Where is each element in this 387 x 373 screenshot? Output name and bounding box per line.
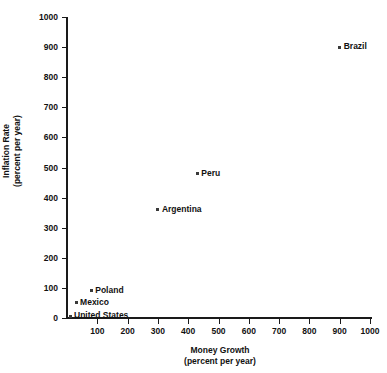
y-tick: [62, 77, 67, 78]
y-tick-label: 700: [22, 102, 58, 112]
data-point-label: Argentina: [162, 204, 202, 214]
data-point-label: Poland: [95, 285, 123, 295]
x-tick-label: 1000: [352, 326, 387, 336]
x-tick: [370, 319, 371, 324]
data-point-label: United States: [74, 310, 128, 320]
y-axis-title: Inflation Rate (percent per year): [1, 81, 23, 221]
data-point-label: Brazil: [344, 41, 367, 51]
x-axis-title: Money Growth (percent per year): [150, 345, 290, 367]
x-tick: [188, 319, 189, 324]
y-axis-title-units: (percent per year): [12, 81, 23, 221]
x-tick: [249, 319, 250, 324]
data-point-marker: [156, 208, 159, 211]
y-tick: [62, 168, 67, 169]
x-tick: [279, 319, 280, 324]
y-tick-label: 500: [22, 163, 58, 173]
x-tick: [309, 319, 310, 324]
y-tick-label: 800: [22, 72, 58, 82]
data-point-marker: [69, 315, 72, 318]
y-tick-label: 300: [22, 223, 58, 233]
y-tick-label: 900: [22, 42, 58, 52]
data-point-label: Peru: [201, 168, 220, 178]
y-tick-label: 600: [22, 132, 58, 142]
x-tick: [340, 319, 341, 324]
y-tick: [62, 198, 67, 199]
y-tick: [62, 107, 67, 108]
x-tick: [219, 319, 220, 324]
y-tick: [62, 318, 67, 319]
y-tick: [62, 137, 67, 138]
scatter-chart: 01002003004005006007008009001000 1002003…: [0, 0, 387, 373]
y-tick-label: 0: [22, 313, 58, 323]
data-point-label: Mexico: [80, 297, 109, 307]
y-tick-label: 1000: [22, 12, 58, 22]
x-axis-title-units: (percent per year): [150, 356, 290, 367]
y-axis-title-main: Inflation Rate: [1, 81, 12, 221]
x-axis-title-main: Money Growth: [150, 345, 290, 356]
data-point-marker: [75, 301, 78, 304]
y-tick: [62, 47, 67, 48]
y-tick: [62, 17, 67, 18]
data-point-marker: [196, 172, 199, 175]
y-tick: [62, 258, 67, 259]
y-tick-label: 200: [22, 253, 58, 263]
y-tick: [62, 288, 67, 289]
x-tick: [158, 319, 159, 324]
data-point-marker: [90, 289, 93, 292]
y-tick: [62, 228, 67, 229]
y-tick-label: 400: [22, 193, 58, 203]
y-tick-label: 100: [22, 283, 58, 293]
data-point-marker: [338, 46, 341, 49]
